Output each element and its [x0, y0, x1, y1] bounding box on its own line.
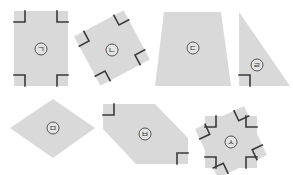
shape-trapezoid-digeut: ㄷ [155, 12, 231, 86]
shapes-figure: ㄱ ㄴ ㄷ ㄹ ㅁ ㅂ [0, 0, 293, 175]
label-bieup: ㅂ [141, 129, 149, 139]
shape-hexagon-bieup: ㅂ [103, 104, 188, 164]
shape-rectangle-giyeok: ㄱ [14, 11, 68, 86]
label-digeut: ㄷ [189, 43, 197, 53]
label-siot: ㅅ [227, 137, 235, 147]
label-giyeok: ㄱ [37, 44, 45, 54]
shape-rhombus-mieum: ㅁ [10, 99, 95, 158]
shape-triangle-rieul: ㄹ [239, 12, 290, 86]
label-mieum: ㅁ [49, 123, 57, 133]
shape-octagon-siot: ㅅ [195, 106, 267, 175]
label-rieul: ㄹ [253, 60, 261, 70]
label-nieun: ㄴ [108, 45, 116, 55]
